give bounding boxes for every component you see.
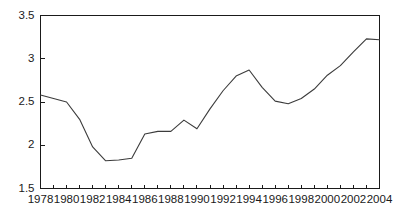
- x-tick-label: 1982: [80, 193, 106, 205]
- y-tick-label: 2.5: [19, 95, 35, 107]
- x-tick-label: 1988: [158, 193, 184, 205]
- x-tick-label: 1986: [132, 193, 158, 205]
- x-tick-label: 1978: [28, 193, 54, 205]
- line-chart: 1.522.533.5 1978198019821984198619881990…: [0, 0, 397, 216]
- x-tick-label: 1980: [54, 193, 80, 205]
- plot-background: [0, 0, 397, 216]
- x-axis-tick-labels: 1978198019821984198619881990199219941996…: [28, 193, 393, 205]
- y-tick-label: 3: [28, 52, 34, 64]
- x-tick-label: 2002: [341, 193, 367, 205]
- chart-container: 1.522.533.5 1978198019821984198619881990…: [0, 0, 397, 216]
- x-tick-label: 1984: [106, 193, 132, 205]
- x-tick-label: 2000: [315, 193, 341, 205]
- x-tick-label: 1998: [288, 193, 314, 205]
- y-tick-label: 3.5: [19, 9, 35, 21]
- x-tick-label: 1996: [262, 193, 288, 205]
- x-tick-label: 2004: [367, 193, 393, 205]
- x-tick-label: 1992: [210, 193, 236, 205]
- y-tick-label: 2: [28, 138, 34, 150]
- x-tick-label: 1990: [184, 193, 210, 205]
- x-tick-label: 1994: [236, 193, 262, 205]
